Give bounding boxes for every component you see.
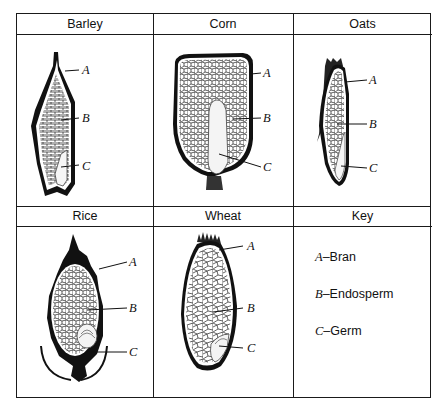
label-b: B — [263, 111, 271, 125]
label-c: C — [129, 345, 138, 359]
label-c: C — [82, 159, 91, 173]
label-a: A — [246, 239, 255, 253]
key-letter: B — [315, 287, 323, 301]
cell-corn: Corn A B C — [153, 14, 293, 206]
label-a: A — [368, 73, 377, 87]
label-b: B — [129, 301, 137, 315]
label-b: B — [369, 117, 377, 131]
label-a: A — [128, 255, 137, 269]
label-c: C — [369, 161, 378, 175]
cell-oats: Oats A B C — [293, 14, 432, 206]
key-separator: – — [323, 250, 330, 264]
label-c: C — [247, 341, 256, 355]
cell-rice: Rice A B C — [17, 206, 153, 399]
label-b: B — [247, 301, 255, 315]
cell-barley: Barley A B C — [17, 14, 153, 206]
key-separator: – — [323, 287, 330, 301]
cell-key: Key A–Bran B–Endosperm C–Germ — [293, 206, 432, 399]
key-item-germ: C–Germ — [315, 324, 362, 339]
key-term: Germ — [330, 324, 361, 338]
label-b: B — [82, 111, 90, 125]
wheat-kernel-illustration: A B C — [153, 206, 293, 399]
key-letter: A — [315, 250, 323, 264]
cell-wheat: Wheat A B C — [153, 206, 293, 399]
key-term: Endosperm — [330, 287, 394, 301]
barley-kernel-illustration: A B C — [17, 14, 153, 206]
oats-kernel-illustration: A B C — [293, 14, 432, 206]
key-item-bran: A–Bran — [315, 250, 356, 265]
key-item-endosperm: B–Endosperm — [315, 287, 394, 302]
label-c: C — [263, 160, 272, 174]
corn-kernel-illustration: A B C — [153, 14, 293, 206]
key-title: Key — [293, 206, 432, 227]
label-a: A — [81, 63, 90, 77]
key-term: Bran — [330, 250, 356, 264]
label-a: A — [262, 66, 271, 80]
rice-kernel-illustration: A B C — [17, 206, 153, 399]
grain-anatomy-table: Barley A B C Corn A B C — [16, 13, 431, 398]
